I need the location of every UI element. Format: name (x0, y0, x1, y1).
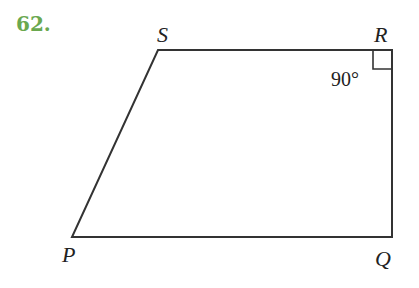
vertex-label-q: Q (375, 246, 391, 271)
vertex-label-s: S (157, 22, 168, 47)
trapezoid-diagram: S R Q P 90° (0, 0, 419, 288)
right-angle-marker (373, 50, 392, 69)
vertex-label-p: P (61, 242, 75, 267)
vertex-label-r: R (373, 22, 388, 47)
angle-label-r: 90° (331, 68, 359, 90)
